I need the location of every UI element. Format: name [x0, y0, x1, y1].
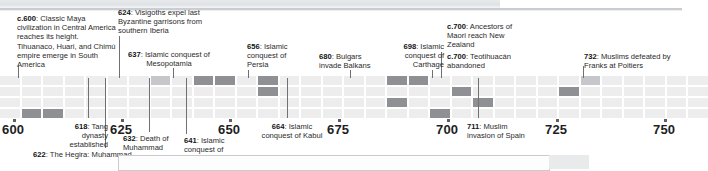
grid-cell — [495, 76, 515, 85]
timeline-event: 664: Islamic conquest of Kabul — [258, 122, 326, 140]
grid-cell — [258, 87, 278, 96]
grid-cell — [258, 109, 278, 118]
grid-cell — [172, 87, 192, 96]
event-description: Visigoths expel last Byzantine garrisons… — [118, 8, 202, 35]
event-year: 632 — [123, 134, 136, 143]
grid-cell — [22, 98, 42, 107]
grid-cell — [688, 87, 708, 96]
grid-cell — [473, 87, 493, 96]
grid-cell — [237, 98, 257, 107]
grid-cell — [495, 109, 515, 118]
grid-cell — [43, 98, 63, 107]
grid-cell — [194, 98, 214, 107]
grid-cell — [667, 109, 687, 118]
grid-cell — [172, 109, 192, 118]
event-leader-line — [149, 78, 150, 132]
axis-tick-label: 650 — [218, 122, 240, 137]
grid-cell — [280, 98, 300, 107]
grid-cell — [129, 76, 149, 85]
event-description: Islamic conquest of Kabul — [262, 122, 323, 140]
grid-cell — [602, 109, 622, 118]
grid-cell — [559, 87, 579, 96]
grid-cell — [452, 76, 472, 85]
event-year: 641 — [184, 136, 197, 145]
timeline-event: 637: Islamic conquest of Mesopotamia — [124, 50, 214, 68]
grid-cell — [624, 109, 644, 118]
grid-cell — [645, 87, 665, 96]
timeline-event: 632: Death of Muhammad — [123, 134, 189, 152]
grid-cell — [194, 76, 214, 85]
event-leader-line — [186, 78, 187, 134]
grid-cell — [129, 87, 149, 96]
grid-cell — [151, 76, 171, 85]
grid-cell — [387, 109, 407, 118]
grid-cell — [237, 109, 257, 118]
event-year: c.700 — [447, 52, 466, 61]
event-leader-line — [248, 70, 249, 78]
grid-cell — [215, 109, 235, 118]
grid-cell — [344, 109, 364, 118]
grid-cell — [645, 76, 665, 85]
bottom-panel-tab — [549, 155, 589, 169]
grid-cell — [344, 76, 364, 85]
grid-cell — [43, 76, 63, 85]
grid-cell — [366, 76, 386, 85]
grid-cell — [194, 109, 214, 118]
event-description: Muslims defeated by Franks at Poitiers — [584, 52, 671, 70]
grid-cell — [65, 76, 85, 85]
grid-cell — [602, 98, 622, 107]
grid-cell — [430, 98, 450, 107]
axis-tick-label: 750 — [653, 122, 675, 137]
bottom-panel-frame — [118, 155, 550, 171]
grid-cell — [430, 87, 450, 96]
event-year: 618 — [75, 122, 88, 131]
event-year: c.600 — [17, 14, 36, 23]
grid-cell — [194, 87, 214, 96]
grid-cell — [645, 98, 665, 107]
grid-cell — [516, 109, 536, 118]
grid-cell — [495, 98, 515, 107]
event-leader-line — [119, 36, 120, 78]
grid-cell — [581, 98, 601, 107]
event-description: Classic Maya civilization in Central Ame… — [17, 14, 116, 69]
grid-cell — [280, 87, 300, 96]
timeline-event: 680: Bulgars invade Balkans — [319, 52, 382, 70]
grid-cell — [667, 87, 687, 96]
grid-cell — [43, 87, 63, 96]
grid-cell — [387, 76, 407, 85]
grid-cell — [65, 87, 85, 96]
grid-cell — [366, 98, 386, 107]
grid-cell — [280, 109, 300, 118]
grid-cell — [538, 109, 558, 118]
grid-cell — [581, 109, 601, 118]
grid-cell — [323, 98, 343, 107]
axis-tick-label: 725 — [545, 122, 567, 137]
grid-cell — [108, 87, 128, 96]
grid-cell — [538, 98, 558, 107]
grid-cell — [688, 76, 708, 85]
grid-cell — [667, 76, 687, 85]
grid-cell — [129, 98, 149, 107]
grid-cell — [430, 109, 450, 118]
grid-cell — [473, 109, 493, 118]
grid-cell — [215, 76, 235, 85]
grid-cell — [129, 109, 149, 118]
timeline-event: 656: Islamic conquest of Persia — [247, 42, 297, 70]
header-rule-light — [0, 10, 682, 11]
grid-cell — [258, 76, 278, 85]
grid-cell — [108, 109, 128, 118]
event-year: 698 — [403, 42, 416, 51]
axis-tick-label: 700 — [436, 122, 458, 137]
event-leader-line — [432, 70, 433, 78]
event-year: 624 — [118, 8, 131, 17]
grid-cell — [301, 98, 321, 107]
grid-cell — [516, 76, 536, 85]
grid-cell — [452, 109, 472, 118]
grid-cell — [215, 87, 235, 96]
grid-cell — [516, 98, 536, 107]
event-leader-line — [88, 78, 89, 118]
timeline-event: 624: Visigoths expel last Byzantine garr… — [118, 8, 210, 36]
event-year: 711 — [467, 122, 479, 131]
event-year: 622 — [33, 150, 46, 159]
grid-cell — [323, 76, 343, 85]
